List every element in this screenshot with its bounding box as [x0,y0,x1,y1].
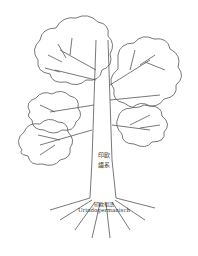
canopy-middle-left [28,91,81,133]
tree-diagram [0,0,198,256]
trunk [90,40,116,198]
trunk-label: 印欧語系 [98,150,110,170]
root-label-german: Urindogermanisch [70,207,138,213]
canopy-lower-left [18,119,72,165]
canopy-upper-right [111,37,182,108]
root-label-chinese: 印欧祖語 [84,200,124,207]
